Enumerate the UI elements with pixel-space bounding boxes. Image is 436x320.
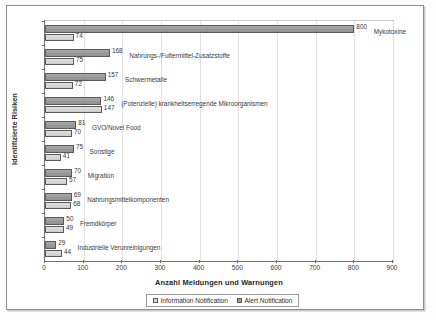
category-label: GVO/Novel Food [92,124,141,131]
legend-item-alert[interactable]: Alert Notification [237,297,293,304]
x-axis-tick-label: 900 [386,264,397,271]
y-axis-tick [42,141,45,142]
chart-bar-group: 16875Nahrungs-/Futtermittel-Zusatzstoffe [45,45,393,69]
bar-alert-notification [45,217,64,225]
x-axis-tick-mark [237,260,238,263]
bar-information-notification [45,154,61,162]
bar-value-label-information: 74 [76,32,83,39]
bar-value-label-information: 41 [63,152,70,159]
x-axis-tick-mark [276,260,277,263]
y-axis-tick [42,93,45,94]
bar-information-notification [45,34,74,42]
chart-legend: Information NotificationAlert Notificati… [146,294,299,307]
category-label: Sonstige [90,148,115,155]
bar-value-label-alert: 50 [66,215,73,222]
category-label: Industrielle Verunreinigungen [78,244,161,251]
x-axis-ticks: 0100200300400500600700800900 [44,264,394,276]
plot-area: 80074Mykotoxine16875Nahrungs-/Futtermitt… [44,20,394,262]
bar-value-label-alert: 81 [78,119,85,126]
y-axis-tick [42,213,45,214]
bar-information-notification [45,250,62,258]
x-axis-tick-mark [315,260,316,263]
y-axis-tick [42,237,45,238]
bar-value-label-alert: 800 [356,23,367,30]
y-axis-tick [42,189,45,190]
bar-alert-notification [45,193,72,201]
category-label: Nahrungsmittelkomponenten [87,196,169,203]
legend-swatch-info-icon [153,298,158,303]
x-axis-tick-mark [392,260,393,263]
x-axis-tick-mark [44,260,45,263]
bar-value-label-information: 44 [64,248,71,255]
category-label: Nahrungs-/Futtermittel-Zusatzstoffe [129,52,229,59]
y-axis-tick [42,165,45,166]
bar-value-label-information: 75 [76,56,83,63]
bar-alert-notification [45,97,101,105]
category-label: (Potenzielle) krankheitserregende Mikroo… [121,100,267,107]
x-axis-tick-label: 100 [77,264,88,271]
legend-label: Information Notification [161,297,228,304]
x-axis-tick-label: 500 [232,264,243,271]
grid-line [393,21,394,261]
x-axis-tick-label: 400 [193,264,204,271]
legend-swatch-alert-icon [237,298,242,303]
chart-bar-group: 2944Industrielle Verunreinigungen [45,237,393,261]
bar-information-notification [45,226,64,234]
chart-bar-group: 5049Fremdkörper [45,213,393,237]
bar-information-notification [45,106,102,114]
chart-bar-group: 15772Schwermetalle [45,69,393,93]
bar-value-label-information: 70 [74,128,81,135]
bar-value-label-information: 72 [75,80,82,87]
chart-bar-group: 8170GVO/Novel Food [45,117,393,141]
bar-value-label-information: 49 [66,224,73,231]
chart-bar-group: 7541Sonstige [45,141,393,165]
bar-value-label-information: 68 [73,200,80,207]
bar-value-label-alert: 69 [74,191,81,198]
chart-screenshot: Identifizierte Risiken 80074Mykotoxine16… [0,0,436,320]
x-axis-tick-label: 600 [270,264,281,271]
x-axis-tick-mark [160,260,161,263]
legend-item-info[interactable]: Information Notification [153,297,228,304]
x-axis-tick-label: 0 [42,264,46,271]
legend-label: Alert Notification [244,297,292,304]
bar-value-label-information: 147 [104,104,115,111]
chart-bar-group: 7057Migration [45,165,393,189]
bar-information-notification [45,178,67,186]
x-axis-tick-mark [199,260,200,263]
bar-value-label-alert: 29 [58,239,65,246]
bar-alert-notification [45,241,56,249]
category-label: Schwermetalle [125,76,167,83]
x-axis-tick-label: 700 [309,264,320,271]
bar-value-label-alert: 168 [112,47,123,54]
bar-value-label-alert: 146 [103,95,114,102]
bar-value-label-alert: 157 [108,71,119,78]
bar-alert-notification [45,169,72,177]
bar-information-notification [45,58,74,66]
bar-value-label-alert: 70 [74,167,81,174]
bar-information-notification [45,82,73,90]
category-label: Mykotoxine [374,28,406,35]
chart-bar-group: 6968Nahrungsmittelkomponenten [45,189,393,213]
x-axis-title: Anzahl Meldungen und Warnungen [44,278,394,287]
category-label: Migration [88,172,114,179]
chart-bar-group: 80074Mykotoxine [45,21,393,45]
x-axis-tick-label: 800 [348,264,359,271]
x-axis-tick-mark [353,260,354,263]
y-axis-tick [42,45,45,46]
category-label: Fremdkörper [80,220,117,227]
bar-information-notification [45,130,72,138]
chart-bar-group: 146147(Potenzielle) krankheitserregende … [45,93,393,117]
y-axis-tick [42,69,45,70]
bar-value-label-information: 57 [69,176,76,183]
bar-alert-notification [45,25,354,33]
chart-frame: Identifizierte Risiken 80074Mykotoxine16… [6,5,424,310]
bar-value-label-alert: 75 [76,143,83,150]
bar-information-notification [45,202,71,210]
y-axis-tick [42,117,45,118]
x-axis-tick-mark [83,260,84,263]
x-axis-tick-label: 300 [154,264,165,271]
y-axis-title: Identifizierte Risiken [10,93,19,165]
y-axis-tick [42,21,45,22]
x-axis-tick-label: 200 [116,264,127,271]
x-axis-tick-mark [121,260,122,263]
